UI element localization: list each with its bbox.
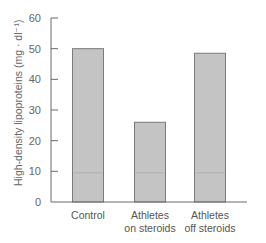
bar: [195, 53, 226, 202]
bar: [135, 122, 166, 202]
chart-canvas: 0102030405060: [0, 0, 266, 243]
x-tick-label: Control: [53, 209, 123, 222]
bar: [73, 49, 104, 202]
y-tick-label: 40: [29, 73, 41, 85]
y-tick-label: 20: [29, 135, 41, 147]
y-tick-label: 10: [29, 165, 41, 177]
y-tick-label: 50: [29, 43, 41, 55]
x-tick-label: Athletesoff steroids: [175, 209, 245, 235]
y-axis-label: High-density lipoproteins (mg · dl⁻¹): [12, 36, 26, 186]
y-tick-label: 60: [29, 12, 41, 24]
bar-chart: 0102030405060 High-density lipoproteins …: [0, 0, 266, 243]
y-tick-label: 0: [35, 196, 41, 208]
y-tick-label: 30: [29, 104, 41, 116]
